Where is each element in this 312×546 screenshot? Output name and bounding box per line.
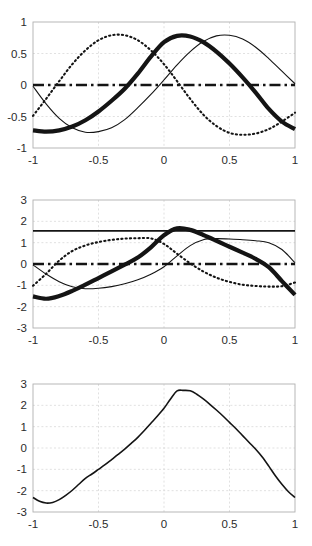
x-tick-label: 0 [161,154,167,166]
x-tick-label: -0.5 [89,334,109,346]
y-tick-label: 2 [21,399,27,411]
x-tick-label: 1 [292,518,298,530]
y-tick-label: 0 [21,258,27,270]
y-tick-label: -2 [17,301,27,313]
x-tick-labels: -1-0.500.51 [28,154,298,166]
y-tick-label: -0.5 [7,111,27,123]
y-tick-label: -1 [17,142,27,154]
y-tick-label: -1 [17,279,27,291]
x-tick-label: 0 [161,518,167,530]
x-tick-label: -1 [28,518,38,530]
y-tick-label: 3 [21,194,27,206]
chart-panel-1: -1-0.500.51-1-0.500.51 [0,0,312,180]
x-tick-label: -0.5 [89,154,109,166]
panel-1-svg: -1-0.500.51-1-0.500.51 [0,0,312,180]
y-tick-label: 0.5 [11,48,27,60]
x-tick-label: -1 [28,154,38,166]
x-tick-label: 1 [292,154,298,166]
x-tick-label: 1 [292,334,298,346]
x-tick-label: -1 [28,334,38,346]
x-tick-labels: -1-0.500.51 [28,334,298,346]
y-tick-label: 0 [21,442,27,454]
y-tick-labels: -3-2-10123 [17,378,27,518]
multi-panel-figure: -1-0.500.51-1-0.500.51 -1-0.500.51-3-2-1… [0,0,312,546]
chart-panel-2: -1-0.500.51-3-2-10123 [0,180,312,362]
y-tick-label: 1 [21,16,27,28]
y-tick-label: 3 [21,378,27,390]
x-tick-label: 0.5 [222,334,238,346]
y-tick-label: 2 [21,215,27,227]
x-tick-label: 0.5 [222,154,238,166]
chart-panel-3: -1-0.500.51-3-2-10123 [0,362,312,546]
x-tick-label: 0 [161,334,167,346]
x-tick-labels: -1-0.500.51 [28,518,298,530]
y-tick-label: -3 [17,322,27,334]
y-tick-label: 1 [21,237,27,249]
x-tick-label: 0.5 [222,518,238,530]
y-tick-labels: -1-0.500.51 [7,16,27,154]
y-tick-label: 1 [21,421,27,433]
y-tick-labels: -3-2-10123 [17,194,27,334]
panel-2-svg: -1-0.500.51-3-2-10123 [0,180,312,362]
y-tick-label: -2 [17,485,27,497]
panel-3-svg: -1-0.500.51-3-2-10123 [0,362,312,546]
y-tick-label: 0 [21,79,27,91]
y-tick-label: -3 [17,506,27,518]
x-tick-label: -0.5 [89,518,109,530]
y-tick-label: -1 [17,463,27,475]
